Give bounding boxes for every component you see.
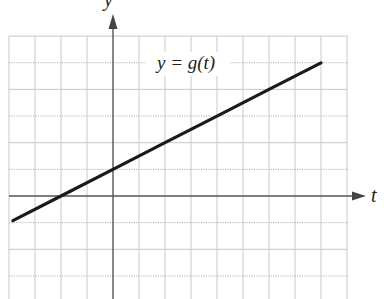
y-axis-label: y — [102, 0, 113, 11]
t-axis-arrow-icon — [352, 192, 366, 201]
line-chart: t y y = g(t) — [0, 0, 384, 299]
line-g-of-t — [13, 63, 321, 221]
curve-label: y = g(t) — [155, 52, 215, 74]
t-axis-label: t — [371, 184, 377, 206]
series-group — [13, 63, 321, 221]
y-axis-arrow-icon — [109, 14, 118, 29]
curve-annotation: y = g(t) — [146, 52, 230, 76]
axes: t y — [9, 0, 377, 299]
